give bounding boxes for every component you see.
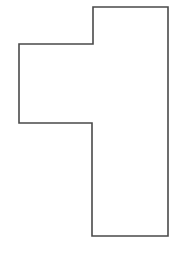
diagram-canvas: [0, 0, 181, 257]
